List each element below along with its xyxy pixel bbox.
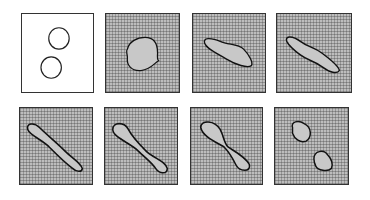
- panel-4-elongated-drop: [276, 13, 352, 93]
- drop-contours: [22, 14, 93, 92]
- drop-contours: [20, 108, 92, 184]
- drop-contours: [277, 14, 351, 92]
- drop-contours: [275, 108, 348, 184]
- panel-5-slender-drop: [19, 107, 93, 185]
- drop-contours: [191, 108, 262, 184]
- panel-7-pinching-drop: [190, 107, 263, 185]
- drop-contours: [106, 14, 179, 92]
- panel-1-two-drops: [21, 13, 94, 93]
- panel-6-necking-drop: [104, 107, 178, 185]
- panel-3-elongating-drop: [192, 13, 266, 93]
- panel-2-coalesced-drop: [105, 13, 180, 93]
- drop-contours: [105, 108, 177, 184]
- drop-contours: [193, 14, 265, 92]
- panel-8-separated-drops: [274, 107, 349, 185]
